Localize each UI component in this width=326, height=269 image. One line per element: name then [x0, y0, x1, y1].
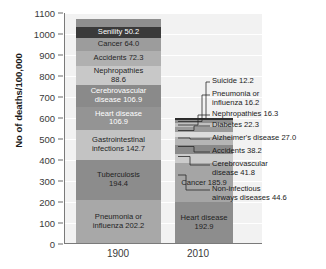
callout-label: Non-infectious airways diseases 44.6 — [212, 185, 287, 203]
callout-label: Cerebrovascular disease 41.8 — [212, 160, 268, 178]
callout-label: Pneumonia or influenza 16.2 — [212, 90, 259, 108]
callout-label: Suicide 12.2 — [212, 77, 254, 86]
callout-label: Nephropathies 16.3 — [212, 110, 278, 119]
callout-label: Diabetes 22.3 — [212, 121, 259, 130]
callout-label: Accidents 38.2 — [212, 147, 262, 156]
callout-labels: Suicide 12.2Pneumonia or influenza 16.2N… — [0, 0, 326, 269]
callout-label: Alzheimer's disease 27.0 — [212, 134, 296, 143]
stacked-bar-chart: No of deaths/100,000 0100200300400500600… — [0, 0, 326, 269]
